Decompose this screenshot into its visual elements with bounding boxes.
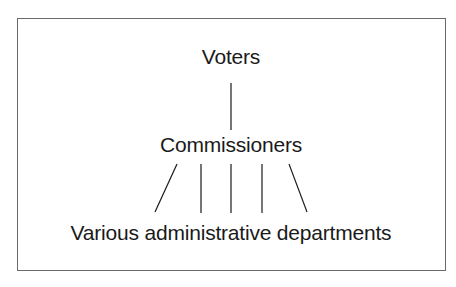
edge-commissioners-dept-1 <box>155 164 177 212</box>
edge-commissioners-dept-5 <box>289 164 307 212</box>
connector-lines <box>0 0 456 287</box>
